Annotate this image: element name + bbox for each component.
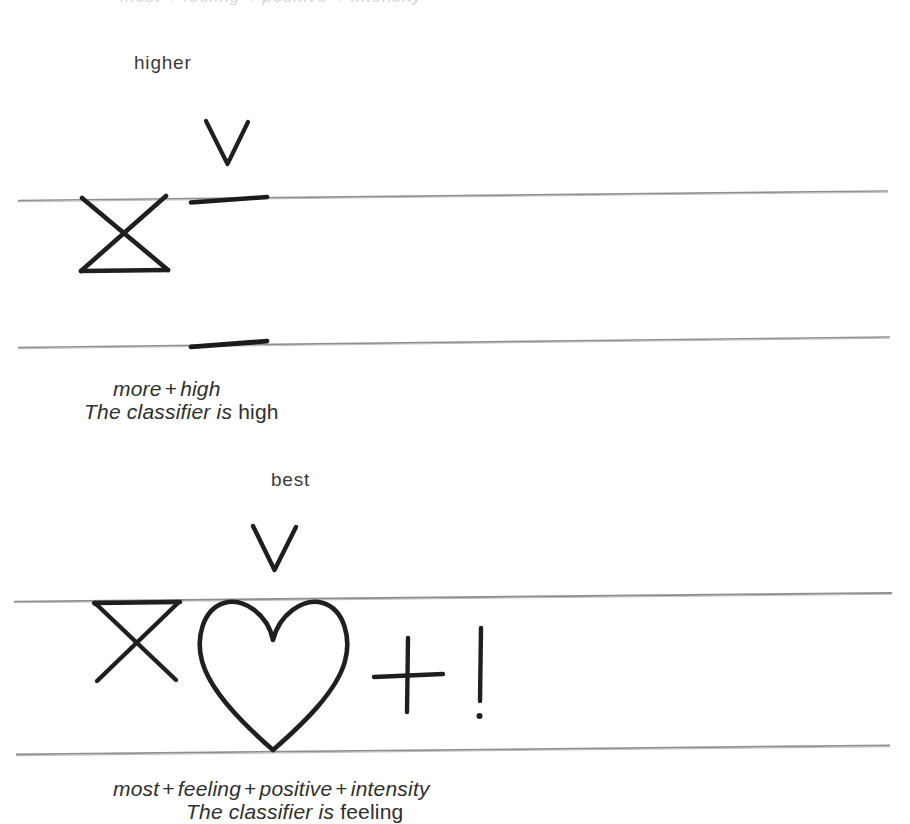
bowtie-x-icon [88,596,188,688]
clipped-top-text-value: most + feeling + positive + intensity [120,0,422,6]
pointer-label-higher: higher [134,52,192,74]
v-arrow-icon [250,523,302,575]
bowtie-x-icon [74,192,178,280]
caption-formula-higher: more+high [113,377,221,401]
v-arrow-icon [203,118,255,170]
caption-sentence-prefix: The classifier is [84,400,232,423]
caption-sentence-higher: The classifier is high [84,400,279,424]
plus-separator: + [159,777,177,800]
plus-icon [370,633,450,717]
clipped-top-text: most + feeling + positive + intensity [0,0,910,6]
caption-sentence-value: high [238,400,279,423]
plus-separator: + [241,777,259,800]
ruled-line-2 [0,333,910,359]
pointer-label-best: best [271,469,310,491]
scanned-page: most + feeling + positive + intensity hi… [0,0,910,824]
ruled-line-4 [0,741,910,767]
ruled-line-3 [0,588,910,614]
caption-formula-term: positive [260,777,333,800]
caption-sentence-value: feeling [340,800,403,823]
caption-formula-term: intensity [351,777,430,800]
caption-formula-term: more [113,377,162,400]
thick-underline-mark [188,193,272,207]
plus-separator: + [162,377,180,400]
ruled-line-1 [0,186,910,212]
plus-separator: + [332,777,350,800]
caption-formula-term: feeling [178,777,241,800]
caption-sentence-prefix: The classifier is [186,800,334,823]
caption-formula-best: most+feeling+positive+intensity [113,777,430,801]
heart-icon [196,595,352,755]
caption-sentence-best: The classifier is feeling [186,800,403,824]
caption-formula-term: high [180,377,221,400]
thick-underline-mark [188,337,272,351]
caption-formula-term: most [113,777,159,800]
exclamation-icon [470,624,494,724]
